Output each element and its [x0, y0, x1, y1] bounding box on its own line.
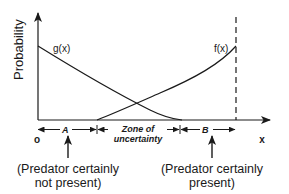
- caption-b-line1: (Predator certainly: [161, 162, 264, 176]
- y-axis-label: Probability: [11, 19, 26, 80]
- f-curve: [97, 46, 236, 120]
- caption-a-line1: (Predator certainly: [17, 162, 120, 176]
- x-axis-label: x: [259, 134, 265, 145]
- zone-a-label: A: [61, 125, 69, 135]
- predator-detection-diagram: Probability g(x) f(x) A Zone of uncertai…: [0, 0, 289, 194]
- g-curve: [38, 46, 182, 120]
- caption-a-line2: not present): [35, 176, 102, 190]
- zone-b-label: B: [202, 125, 209, 135]
- g-curve-label: g(x): [53, 43, 70, 54]
- zone-uncertainty-label-line1: Zone of: [121, 124, 155, 134]
- caption-b-line2: present): [189, 176, 235, 190]
- zone-uncertainty-label-line2: uncertainty: [114, 134, 164, 144]
- origin-label: o: [34, 134, 40, 145]
- f-curve-label: f(x): [214, 43, 228, 54]
